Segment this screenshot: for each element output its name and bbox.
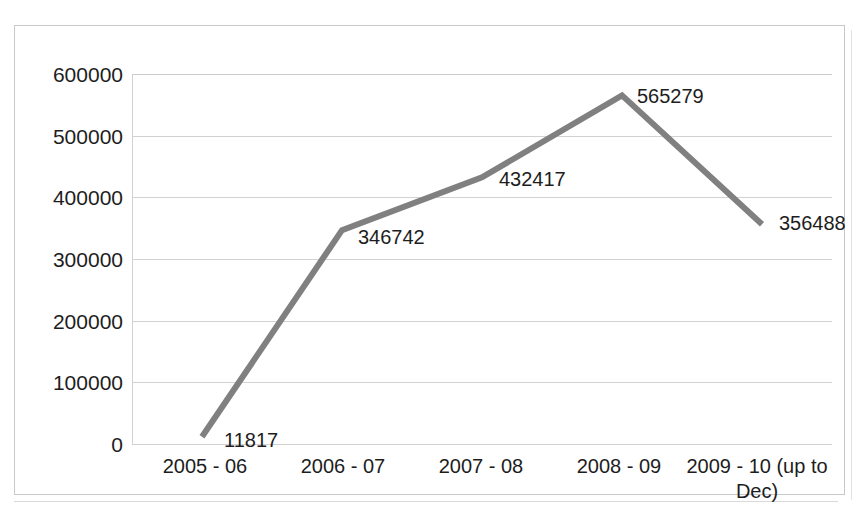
chart-frame: 600000 500000 400000 300000 200000 10000…: [14, 25, 845, 495]
plot-area: 11817 346742 432417 565279 356488: [132, 74, 832, 444]
y-tick-label: 500000: [19, 125, 123, 146]
series-line: [132, 74, 832, 444]
y-tick-label: 400000: [19, 187, 123, 208]
y-tick-label: 300000: [19, 249, 123, 270]
data-label-point-2: 346742: [358, 227, 425, 247]
x-tick-label-2008-09: 2008 - 09: [539, 454, 699, 479]
y-axis: 600000 500000 400000 300000 200000 10000…: [15, 74, 123, 444]
x-tick-label-2007-08: 2007 - 08: [401, 454, 561, 479]
series-polyline: [202, 95, 762, 436]
y-tick-label: 0: [19, 434, 123, 455]
data-label-point-4: 565279: [637, 86, 704, 106]
x-tick-label-2009-10: 2009 - 10 (up to Dec): [677, 454, 837, 504]
x-tick-label-2005-06: 2005 - 06: [125, 454, 285, 479]
y-tick-label: 100000: [19, 372, 123, 393]
x-tick-label-2006-07: 2006 - 07: [263, 454, 423, 479]
x-axis: 2005 - 06 2006 - 07 2007 - 08 2008 - 09 …: [132, 454, 832, 510]
scan-edge-shadow-right: [851, 30, 852, 500]
y-tick-label: 200000: [19, 310, 123, 331]
data-label-point-1: 11817: [224, 430, 278, 450]
data-label-point-3: 432417: [499, 169, 566, 189]
y-tick-label: 600000: [19, 64, 123, 85]
data-label-point-5: 356488: [779, 213, 846, 233]
